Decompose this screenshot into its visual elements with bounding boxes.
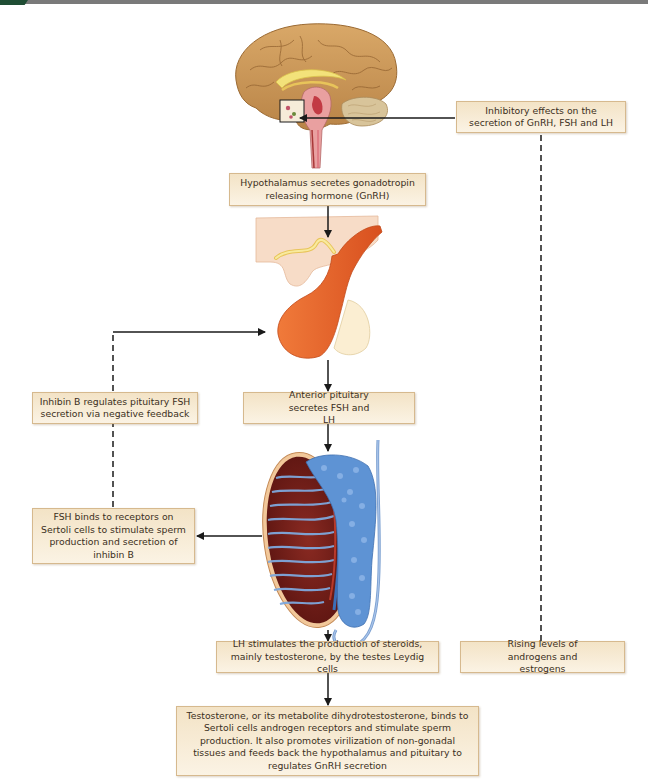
fsh-binds-box: FSH binds to receptors on Sertoli cells … (32, 508, 195, 564)
testosterone-box: Testosterone, or its metabolite dihydrot… (176, 706, 479, 776)
inhibitory-effects-text: Inhibitory effects on the secretion of G… (463, 105, 619, 130)
lh-stimulates-text: LH stimulates the production of steroids… (223, 638, 432, 676)
anterior-pituitary-box: Anterior pituitary secretes FSH and LH (243, 392, 415, 424)
testis-illustration (252, 440, 379, 647)
rising-levels-text: Rising levels of androgens and estrogens (485, 638, 600, 676)
inhibin-b-box: Inhibin B regulates pituitary FSH secret… (32, 392, 198, 424)
anterior-pituitary-text: Anterior pituitary secretes FSH and LH (284, 389, 374, 427)
rising-levels-box: Rising levels of androgens and estrogens (460, 641, 625, 673)
hypothalamus-box: Hypothalamus secretes gonadotropin relea… (229, 173, 426, 206)
testosterone-text: Testosterone, or its metabolite dihydrot… (185, 710, 470, 773)
hypothalamus-text: Hypothalamus secretes gonadotropin relea… (236, 177, 419, 202)
inhibitory-effects-box: Inhibitory effects on the secretion of G… (456, 101, 626, 133)
inhibin-b-text: Inhibin B regulates pituitary FSH secret… (39, 396, 191, 421)
fsh-binds-text: FSH binds to receptors on Sertoli cells … (39, 511, 188, 561)
brain-illustration (236, 24, 397, 168)
pituitary-illustration (256, 216, 382, 358)
lh-stimulates-box: LH stimulates the production of steroids… (216, 641, 439, 673)
